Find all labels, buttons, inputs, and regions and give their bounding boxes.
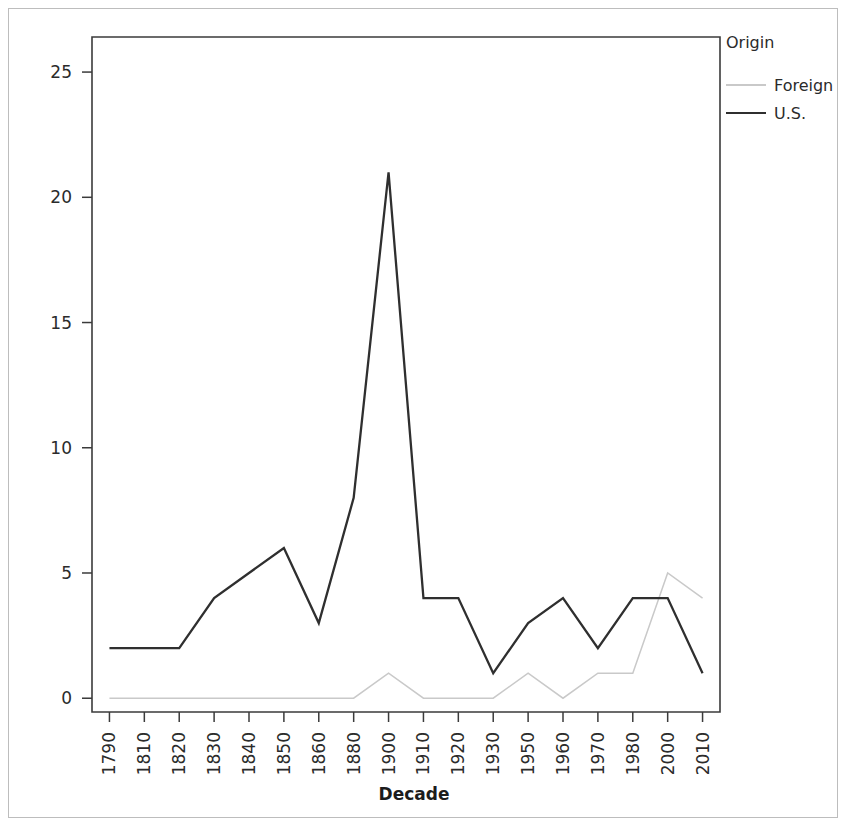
- y-tick-label: 5: [61, 563, 72, 583]
- y-axis: 0510152025: [50, 62, 92, 708]
- line-chart-figure: 0510152025 17901810182018301840185018601…: [0, 0, 846, 826]
- x-tick-label: 1850: [274, 732, 294, 775]
- x-tick-label: 1900: [379, 732, 399, 775]
- y-tick-label: 0: [61, 688, 72, 708]
- x-tick-label: 1830: [204, 732, 224, 775]
- chart-canvas: 0510152025 17901810182018301840185018601…: [0, 0, 846, 826]
- legend-label-foreign: Foreign: [774, 76, 833, 95]
- y-tick-label: 25: [50, 62, 72, 82]
- chart-page: 0510152025 17901810182018301840185018601…: [0, 0, 846, 826]
- legend-label-us: U.S.: [774, 104, 806, 123]
- series-lines: [109, 172, 702, 698]
- x-tick-label: 1820: [169, 732, 189, 775]
- series-line-us: [109, 172, 702, 673]
- y-tick-label: 10: [50, 438, 72, 458]
- x-tick-label: 1980: [623, 732, 643, 775]
- x-tick-label: 1960: [553, 732, 573, 775]
- x-tick-label: 1950: [518, 732, 538, 775]
- y-tick-label: 15: [50, 313, 72, 333]
- x-tick-label: 1970: [588, 732, 608, 775]
- x-tick-label: 1920: [448, 732, 468, 775]
- legend-title: Origin: [726, 33, 774, 52]
- x-tick-label: 1910: [413, 732, 433, 775]
- legend: Origin Foreign U.S.: [726, 33, 833, 123]
- series-line-foreign: [109, 573, 702, 698]
- x-axis-title: Decade: [379, 784, 450, 804]
- x-tick-label: 1880: [344, 732, 364, 775]
- x-tick-label: 2000: [658, 732, 678, 775]
- x-tick-label: 2010: [693, 732, 713, 775]
- x-tick-label: 1860: [309, 732, 329, 775]
- x-axis: 1790181018201830184018501860188019001910…: [99, 712, 712, 775]
- x-tick-label: 1790: [99, 732, 119, 775]
- y-tick-label: 20: [50, 187, 72, 207]
- x-tick-label: 1840: [239, 732, 259, 775]
- x-tick-label: 1930: [483, 732, 503, 775]
- x-tick-label: 1810: [134, 732, 154, 775]
